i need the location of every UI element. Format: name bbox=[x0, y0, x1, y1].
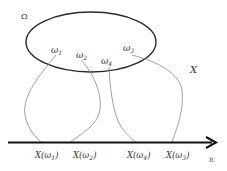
image-x-w3: X(ω3) bbox=[165, 150, 189, 161]
svg-text:X(ω4): X(ω4) bbox=[126, 150, 150, 161]
svg-text:ω2: ω2 bbox=[76, 50, 87, 61]
mapping-curve-w4 bbox=[109, 67, 136, 142]
mapping-curve-w3 bbox=[132, 55, 182, 142]
svg-text:ω3: ω3 bbox=[123, 43, 134, 54]
axis-r-label: R bbox=[208, 156, 214, 163]
svg-text:ω4: ω4 bbox=[101, 56, 112, 67]
mapping-curve-w1 bbox=[25, 55, 56, 142]
svg-text:X(ω3): X(ω3) bbox=[165, 150, 189, 161]
outcome-w2: ω2 bbox=[76, 50, 87, 61]
svg-text:X(ω1): X(ω1) bbox=[34, 150, 58, 161]
outcome-w4: ω4 bbox=[101, 56, 112, 67]
outcome-w3: ω3 bbox=[123, 43, 134, 54]
image-x-w2: X(ω2) bbox=[72, 150, 96, 161]
image-x-w1: X(ω1) bbox=[34, 150, 58, 161]
outcome-w1: ω1 bbox=[51, 45, 62, 56]
mapping-x-label: X bbox=[189, 64, 198, 75]
svg-text:X(ω2): X(ω2) bbox=[72, 150, 96, 161]
random-variable-diagram: Ω X ω1 ω2 ω4 ω3 R X(ω1) X(ω2) X(ω4) X(ω3… bbox=[0, 0, 227, 171]
svg-text:ω1: ω1 bbox=[51, 45, 62, 56]
image-x-w4: X(ω4) bbox=[126, 150, 150, 161]
omega-label: Ω bbox=[21, 12, 28, 21]
sample-space-ellipse bbox=[26, 12, 156, 72]
